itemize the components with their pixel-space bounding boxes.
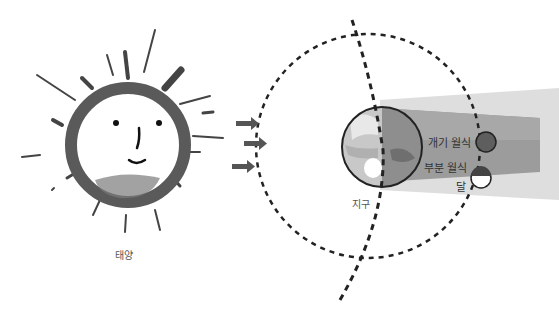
- sun-icon: [22, 30, 223, 232]
- sun-label: 태양: [115, 247, 133, 262]
- moon-partial-eclipse-icon: [471, 166, 491, 188]
- lunar-eclipse-diagram: 태양 지구 개기 월식 부분 월식 달: [0, 0, 559, 317]
- sunlight-arrows: [232, 117, 267, 173]
- moon-total-eclipse-icon: [476, 132, 496, 152]
- total-eclipse-label: 개기 월식: [428, 134, 472, 150]
- arrow-right-icon: [236, 117, 259, 130]
- earth-label: 지구: [352, 196, 370, 211]
- partial-eclipse-label: 부분 월식: [424, 159, 468, 175]
- arrow-right-icon: [232, 160, 255, 173]
- moon-label: 달: [456, 178, 466, 194]
- arrow-right-icon: [244, 137, 267, 150]
